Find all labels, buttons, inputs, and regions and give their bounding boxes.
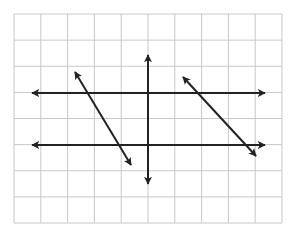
grid-diagram [0, 0, 293, 235]
lines-group [32, 55, 265, 184]
